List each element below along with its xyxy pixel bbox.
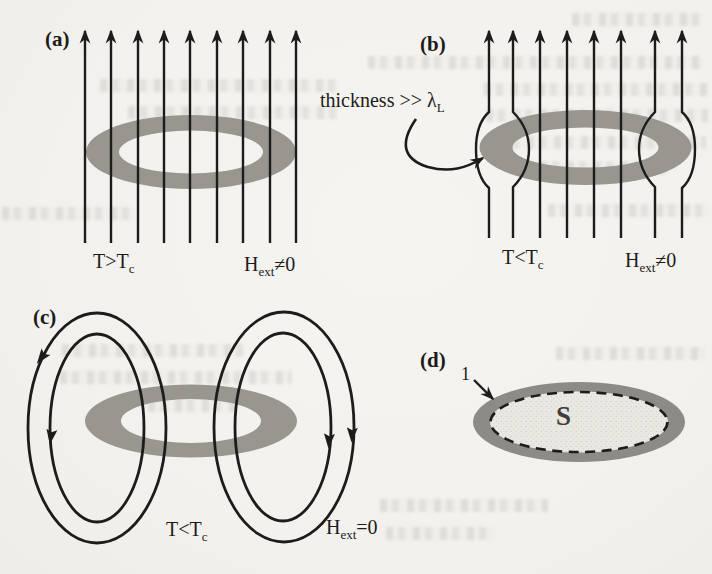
thickness-annotation-arrow (406, 119, 483, 170)
external-field-label-a: Hext≠0 (244, 253, 295, 275)
scanned-figure-page: (a) (b) (c) (d) T>Tc Hext≠0 thickness >>… (0, 0, 712, 574)
panel-a-drawing (85, 31, 296, 243)
loop-arrowhead (346, 427, 358, 443)
thickness-annotation-label: thickness >> λL (320, 89, 445, 111)
panel-b-drawing (406, 31, 695, 238)
temperature-label-c: T<Tc (166, 518, 208, 540)
panel-a-label: (a) (45, 28, 70, 51)
temperature-label-b: T<Tc (502, 246, 544, 268)
field-loops-c (28, 312, 358, 543)
external-field-label-b: Hext≠0 (625, 249, 676, 271)
panel-d-drawing (473, 380, 685, 462)
panel-b-label: (b) (420, 33, 446, 56)
temperature-label-a: T>Tc (93, 250, 135, 272)
panel-c-drawing (28, 312, 358, 543)
figure-drawing (0, 0, 712, 574)
panel-c-label: (c) (33, 306, 56, 329)
superconducting-ring-b (480, 110, 692, 185)
loop-arrowhead (32, 348, 50, 367)
surface-S-label: S (556, 402, 571, 432)
external-field-label-c: Hext=0 (326, 516, 378, 538)
loop-arrowhead (323, 433, 335, 449)
contour-1-label: 1 (461, 365, 470, 385)
superconducting-ring-c (85, 385, 297, 458)
contour-1-pointer-arrow (474, 380, 493, 399)
panel-d-label: (d) (420, 349, 446, 372)
